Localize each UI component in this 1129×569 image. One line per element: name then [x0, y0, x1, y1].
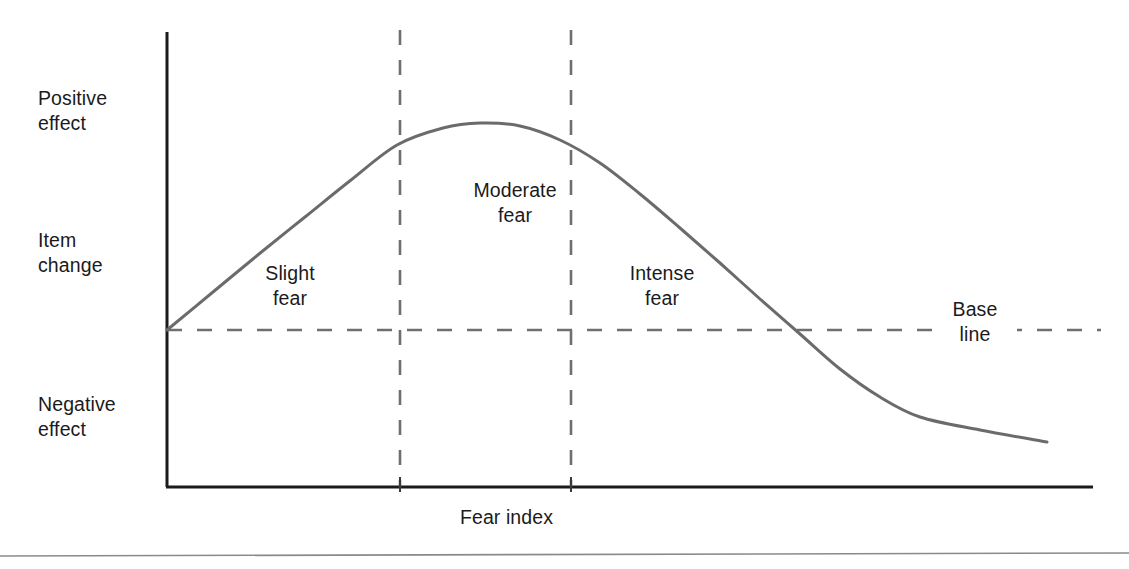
chart-plot-area — [0, 0, 1129, 569]
axis-title-fear-index: Fear index — [0, 505, 1129, 530]
footer-rule — [0, 553, 1129, 556]
figure-canvas: Positive effect Item change Negative eff… — [0, 0, 1129, 569]
region-label-slight-fear: Slight fear — [238, 261, 342, 311]
axis-label-positive-effect: Positive effect — [38, 86, 107, 136]
region-label-intense-fear: Intense fear — [603, 261, 721, 311]
axis-label-item-change: Item change — [38, 228, 103, 278]
axis-title-fear-index-text: Fear index — [460, 505, 553, 530]
axis-label-negative-effect: Negative effect — [38, 392, 116, 442]
reference-label-base-line: Base line — [933, 297, 1017, 347]
region-label-moderate-fear: Moderate fear — [440, 178, 590, 228]
